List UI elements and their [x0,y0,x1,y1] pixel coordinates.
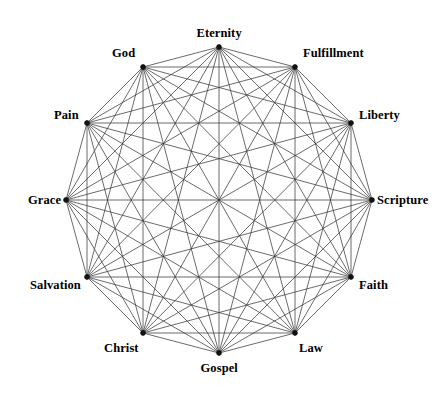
node-label-eternity: Eternity [197,27,242,40]
node-label-faith: Faith [359,279,388,292]
graph-node-fulfillment[interactable] [293,65,298,70]
graph-edge [295,277,351,333]
graph-edge [87,123,219,353]
graph-edge [143,67,351,277]
node-label-salvation: Salvation [30,279,81,292]
diagram-canvas: EternityFulfillmentLibertyScriptureFaith… [0,0,447,393]
graph-edge [143,67,372,200]
graph-node-pain[interactable] [85,121,90,126]
graph-node-god[interactable] [141,65,146,70]
edges-group [66,47,372,353]
graph-edge [219,47,351,277]
graph-edge [87,277,143,333]
graph-edge [143,47,219,333]
graph-edge [219,123,351,353]
node-label-scripture: Scripture [377,194,428,207]
graph-edge [143,200,372,333]
graph-edge [66,200,295,333]
node-label-fulfillment: Fulfillment [303,47,364,60]
graph-edge [87,67,295,277]
graph-edge [87,67,143,123]
graph-edge [87,67,143,277]
graph-node-liberty[interactable] [349,121,354,126]
node-label-gospel: Gospel [201,362,238,375]
graph-edge [295,67,351,123]
node-label-god: God [112,47,135,60]
graph-edge [295,123,351,333]
graph-edge [351,123,372,200]
graph-edge [143,47,219,67]
graph-node-faith[interactable] [349,275,354,280]
graph-edge [87,47,219,277]
graph-node-law[interactable] [293,331,298,336]
node-label-grace: Grace [28,194,61,207]
node-label-pain: Pain [54,109,79,122]
graph-node-scripture[interactable] [370,198,375,203]
graph-edge [66,67,143,200]
graph-edge [351,200,372,277]
graph-node-grace[interactable] [64,198,69,203]
graph-node-salvation[interactable] [85,275,90,280]
graph-edge [143,333,219,353]
graph-edge [87,123,295,333]
graph-edge [143,67,219,353]
node-label-liberty: Liberty [359,109,400,122]
graph-edge [66,200,143,333]
graph-edge [219,47,295,333]
node-label-christ: Christ [104,342,139,355]
graph-edge [219,47,295,67]
graph-node-eternity[interactable] [217,45,222,50]
graph-edge [66,67,295,200]
graph-edge [219,333,295,353]
graph-edge [87,123,143,333]
graph-node-gospel[interactable] [217,351,222,356]
graph-edge [143,123,351,333]
graph-edge [66,123,87,200]
graph-edge [66,200,87,277]
node-label-law: Law [299,342,323,355]
graph-edge [219,67,295,353]
graph-node-christ[interactable] [141,331,146,336]
